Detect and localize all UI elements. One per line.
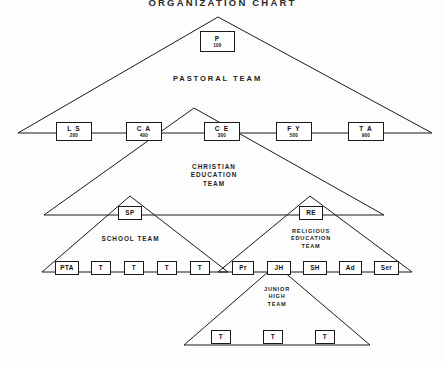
node-temporal-affairs[interactable]: T A 900 xyxy=(348,122,384,141)
node-jh-teacher-3-code: T xyxy=(323,334,327,340)
node-family-youth-code: F Y xyxy=(287,126,300,133)
node-school-teacher-2-code: T xyxy=(132,265,136,271)
node-christian-education-code: C E xyxy=(215,126,229,133)
node-school-principal[interactable]: SP xyxy=(118,206,142,220)
node-liturgy-service-number: 200 xyxy=(70,134,78,139)
caption-pastoral-team: PASTORAL TEAM xyxy=(140,74,295,84)
node-pta-code: PTA xyxy=(60,265,74,271)
node-school-teacher-1[interactable]: T xyxy=(91,261,111,275)
node-christian-education[interactable]: C E 300 xyxy=(204,122,240,141)
node-jh-teacher-1-code: T xyxy=(219,334,223,340)
caption-school-team: SCHOOL TEAM xyxy=(78,235,183,243)
node-adult[interactable]: Ad xyxy=(339,261,362,275)
caption-christian-education-team: CHRISTIAN EDUCATION TEAM xyxy=(159,163,269,188)
node-service-code: Ser xyxy=(381,265,393,271)
node-temporal-affairs-code: T A xyxy=(359,126,373,133)
node-junior-high-code: JH xyxy=(275,265,284,271)
node-principal-code: Pr xyxy=(239,265,247,271)
node-school-teacher-4[interactable]: T xyxy=(190,261,210,275)
node-school-teacher-1-code: T xyxy=(99,265,103,271)
node-school-principal-code: SP xyxy=(125,210,134,216)
node-religious-education-code: RE xyxy=(306,210,316,216)
node-family-youth-number: 500 xyxy=(290,134,298,139)
node-christian-action[interactable]: C A 400 xyxy=(126,122,162,141)
node-religious-education[interactable]: RE xyxy=(299,206,323,220)
node-family-youth[interactable]: F Y 500 xyxy=(276,122,312,141)
node-pastor-number: 100 xyxy=(213,44,221,49)
node-christian-action-code: C A xyxy=(137,126,151,133)
node-jh-teacher-1[interactable]: T xyxy=(211,330,231,344)
node-liturgy-service-code: L S xyxy=(67,126,80,133)
node-senior-high-code: SH xyxy=(310,265,320,271)
node-christian-action-number: 400 xyxy=(140,134,148,139)
node-junior-high[interactable]: JH xyxy=(267,261,291,275)
node-service[interactable]: Ser xyxy=(374,261,399,275)
node-school-teacher-3[interactable]: T xyxy=(157,261,177,275)
node-senior-high[interactable]: SH xyxy=(303,261,327,275)
node-pastor[interactable]: P 100 xyxy=(200,31,235,52)
node-principal[interactable]: Pr xyxy=(232,261,254,275)
caption-junior-high-team: JUNIOR HIGH TEAM xyxy=(229,286,325,308)
node-jh-teacher-2-code: T xyxy=(271,334,275,340)
node-temporal-affairs-number: 900 xyxy=(362,134,370,139)
node-pta[interactable]: PTA xyxy=(55,261,79,275)
node-pastor-code: P xyxy=(215,36,221,43)
node-school-teacher-3-code: T xyxy=(165,265,169,271)
node-jh-teacher-3[interactable]: T xyxy=(315,330,335,344)
node-jh-teacher-2[interactable]: T xyxy=(263,330,283,344)
organization-chart: ORGANIZATION CHART P 100 PASTORAL TEAM L… xyxy=(0,0,445,367)
node-school-teacher-2[interactable]: T xyxy=(124,261,144,275)
node-liturgy-service[interactable]: L S 200 xyxy=(56,122,92,141)
node-school-teacher-4-code: T xyxy=(198,265,202,271)
node-christian-education-number: 300 xyxy=(218,134,226,139)
node-adult-code: Ad xyxy=(346,265,355,271)
caption-religious-education-team: RELIGIOUS EDUCATION TEAM xyxy=(263,228,359,250)
